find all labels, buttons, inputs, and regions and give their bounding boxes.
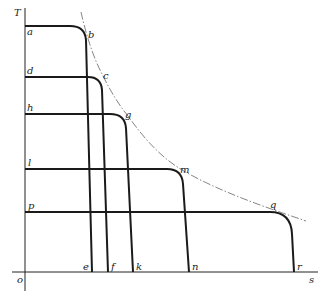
point-label-p: p (28, 200, 35, 211)
point-label-g: g (125, 109, 131, 120)
process-curve-dcf (25, 77, 108, 272)
t-s-diagram: T s o a d h l p b c g m q e f k n r (0, 0, 327, 299)
point-label-c: c (103, 70, 109, 81)
y-axis-label: T (14, 7, 22, 18)
point-label-f: f (110, 261, 117, 272)
point-label-r: r (297, 261, 303, 272)
point-label-a: a (27, 26, 33, 37)
point-label-e: e (83, 261, 89, 272)
point-label-d: d (27, 65, 33, 76)
point-label-q: q (270, 199, 276, 210)
process-curve-hgk (25, 114, 133, 272)
point-label-b: b (88, 29, 94, 40)
point-label-k: k (136, 261, 142, 272)
point-label-h: h (27, 102, 33, 113)
point-label-l: l (28, 157, 31, 168)
envelope-curve (81, 12, 306, 221)
process-curve-pqr (25, 212, 294, 272)
point-label-n: n (192, 261, 198, 272)
x-axis-label: s (309, 274, 314, 285)
origin-label: o (17, 274, 23, 285)
process-curve-abe (25, 26, 92, 272)
point-label-m: m (180, 164, 189, 175)
